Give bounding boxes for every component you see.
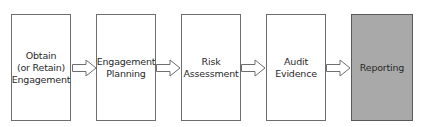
step-label-line: (or Retain) — [12, 62, 71, 74]
step-label-line: Risk — [184, 56, 239, 68]
step-label-line: Audit — [275, 56, 317, 68]
step-label-line: Evidence — [275, 68, 317, 80]
step-obtain-engagement: Obtain (or Retain) Engagement — [11, 14, 71, 121]
step-label-line: Assessment — [184, 68, 239, 80]
arrow-right-icon — [72, 59, 97, 77]
step-label-line: Engagement — [97, 56, 156, 68]
step-engagement-planning: Engagement Planning — [96, 14, 156, 121]
step-risk-assessment: Risk Assessment — [181, 14, 241, 121]
step-reporting: Reporting — [351, 14, 413, 121]
step-label-line: Obtain — [12, 50, 71, 62]
step-label-line: Planning — [97, 68, 156, 80]
arrow-right-icon — [241, 59, 266, 77]
arrow-right-icon — [326, 59, 351, 77]
step-label-line: Engagement — [12, 74, 71, 86]
step-audit-evidence: Audit Evidence — [266, 14, 326, 121]
arrow-right-icon — [156, 59, 181, 77]
step-label-line: Reporting — [360, 62, 404, 74]
